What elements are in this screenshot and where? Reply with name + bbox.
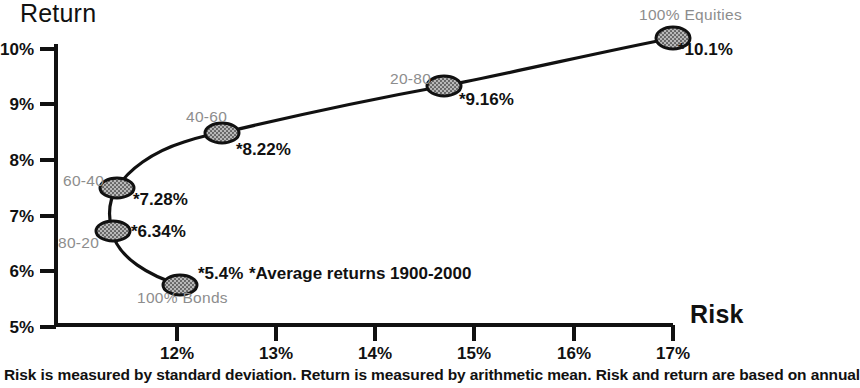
y-tick-label-10: 10%	[0, 40, 34, 60]
y-tick-label-9: 9%	[0, 95, 34, 115]
return-value-40-60: *8.22%	[236, 140, 291, 160]
x-tick-label-15: 15%	[444, 344, 504, 364]
allocation-label-60-40: 60-40	[63, 172, 104, 190]
allocation-label-80-20: 80-20	[58, 234, 99, 252]
allocation-label-40-60: 40-60	[186, 108, 227, 126]
footnote-text: Risk is measured by standard deviation. …	[4, 366, 860, 384]
average-returns-annotation: *Average returns 1900-2000	[249, 264, 471, 284]
allocation-label-20-80: 20-80	[390, 70, 431, 88]
x-tick-label-14: 14%	[345, 344, 405, 364]
return-value-80-20: *6.34%	[131, 222, 186, 242]
x-tick-label-17: 17%	[643, 344, 703, 364]
marker-20-80	[427, 76, 461, 96]
marker-80-20	[96, 221, 130, 241]
y-tick-label-5: 5%	[0, 318, 34, 338]
return-value-60-40: *7.28%	[133, 190, 188, 210]
marker-60-40	[100, 178, 134, 198]
data-point-markers	[96, 27, 690, 295]
y-tick-label-7: 7%	[0, 207, 34, 227]
y-tick-label-8: 8%	[0, 151, 34, 171]
return-value-100-bonds: *5.4%	[198, 264, 243, 284]
return-value-100-equities: *10.1%	[678, 40, 733, 60]
y-tick-label-6: 6%	[0, 262, 34, 282]
return-value-20-80: *9.16%	[459, 90, 514, 110]
x-tick-label-13: 13%	[246, 344, 306, 364]
allocation-label-100-bonds: 100% Bonds	[137, 289, 228, 307]
y-axis-ticks	[40, 49, 56, 327]
x-tick-label-16: 16%	[544, 344, 604, 364]
allocation-label-100-equities: 100% Equities	[639, 6, 742, 24]
marker-40-60	[205, 123, 239, 143]
x-tick-label-12: 12%	[147, 344, 207, 364]
x-axis-ticks	[177, 325, 574, 341]
